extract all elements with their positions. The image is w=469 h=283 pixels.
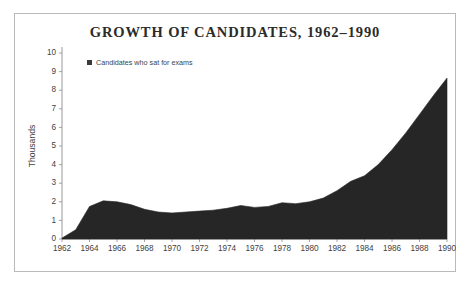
svg-text:9: 9 xyxy=(51,67,56,76)
svg-text:3: 3 xyxy=(51,178,56,187)
svg-text:8: 8 xyxy=(51,85,56,94)
svg-text:1978: 1978 xyxy=(273,244,292,253)
svg-text:1974: 1974 xyxy=(218,244,237,253)
svg-text:1980: 1980 xyxy=(300,244,319,253)
svg-text:1982: 1982 xyxy=(328,244,347,253)
svg-text:1986: 1986 xyxy=(383,244,402,253)
svg-text:5: 5 xyxy=(51,141,56,150)
svg-text:0: 0 xyxy=(51,234,56,243)
svg-text:1: 1 xyxy=(51,216,56,225)
svg-text:2: 2 xyxy=(51,197,56,206)
svg-text:4: 4 xyxy=(51,160,56,169)
svg-text:1988: 1988 xyxy=(410,244,429,253)
series-area-candidates-who-sat-for-exams xyxy=(62,78,447,239)
svg-text:1970: 1970 xyxy=(163,244,182,253)
svg-text:10: 10 xyxy=(47,48,57,57)
svg-text:1990: 1990 xyxy=(438,244,457,253)
svg-text:7: 7 xyxy=(51,104,56,113)
data-series xyxy=(62,78,447,239)
svg-text:1968: 1968 xyxy=(135,244,154,253)
x-axis: 1962196419661968197019721974197619781980… xyxy=(53,239,457,253)
y-axis: 012345678910 xyxy=(47,47,62,243)
svg-text:1964: 1964 xyxy=(80,244,99,253)
svg-text:6: 6 xyxy=(51,123,56,132)
svg-text:1984: 1984 xyxy=(355,244,374,253)
svg-text:1972: 1972 xyxy=(190,244,209,253)
chart-plot-area: 012345678910 196219641966196819701972197… xyxy=(15,14,457,273)
svg-text:1962: 1962 xyxy=(53,244,72,253)
svg-text:1976: 1976 xyxy=(245,244,264,253)
chart-figure: GROWTH OF CANDIDATES, 1962–1990 Candidat… xyxy=(14,13,456,272)
y-axis-label: Thousands xyxy=(27,125,37,168)
svg-text:1966: 1966 xyxy=(108,244,127,253)
